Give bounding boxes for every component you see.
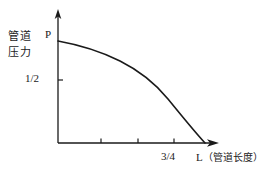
y-axis-tick-label-half: 1/2 (25, 72, 39, 85)
chart-figure: 管道 压力 P 1/2 3/4 L（管道长度） (0, 0, 272, 175)
y-axis-label-line-1: 管道 (8, 31, 31, 44)
chart-plot-area (0, 0, 272, 175)
x-axis-tick-label-three-quarters: 3/4 (161, 150, 175, 163)
y-axis-tick-label-p: P (45, 28, 51, 41)
y-axis-label-line-2: 压力 (8, 47, 31, 60)
y-axis-label: 管道 压力 (8, 31, 31, 62)
x-axis-label-text: （管道长度） (203, 152, 263, 163)
x-axis-label: L（管道长度） (196, 151, 263, 164)
x-axis-label-symbol: L (196, 151, 203, 163)
pressure-curve (58, 41, 205, 143)
